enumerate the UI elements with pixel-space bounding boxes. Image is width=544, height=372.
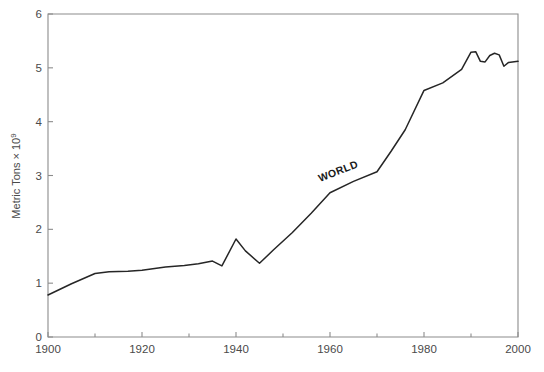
y-tick-label-1: 1 bbox=[36, 277, 42, 289]
x-tick-label-2000: 2000 bbox=[505, 343, 531, 355]
y-axis-title-text: Metric Tons × 10 bbox=[10, 138, 22, 219]
x-axis-tick-labels: 190019201940196019802000 bbox=[35, 343, 531, 355]
series-annotation-1: WORLD bbox=[316, 158, 359, 184]
y-tick-label-2: 2 bbox=[36, 223, 42, 235]
x-tick-label-1920: 1920 bbox=[129, 343, 155, 355]
x-tick-label-1980: 1980 bbox=[411, 343, 437, 355]
y-tick-label-4: 4 bbox=[36, 116, 43, 128]
x-tick-label-1960: 1960 bbox=[317, 343, 343, 355]
y-axis-title: Metric Tons × 109 bbox=[9, 133, 22, 219]
y-axis-title-exponent: 9 bbox=[9, 133, 18, 138]
x-tick-label-1900: 1900 bbox=[35, 343, 61, 355]
chart-canvas: 0123456 190019201940196019802000 Metric … bbox=[0, 0, 544, 372]
svg-text:Metric Tons × 109: Metric Tons × 109 bbox=[9, 133, 22, 219]
data-series-world bbox=[48, 52, 518, 295]
x-axis-ticks bbox=[48, 332, 518, 337]
y-tick-label-3: 3 bbox=[36, 170, 42, 182]
y-tick-label-5: 5 bbox=[36, 62, 42, 74]
x-tick-label-1940: 1940 bbox=[223, 343, 249, 355]
plot-frame bbox=[48, 14, 518, 337]
y-tick-label-6: 6 bbox=[36, 8, 42, 20]
y-axis-ticks bbox=[48, 14, 53, 337]
chart-figure: 0123456 190019201940196019802000 Metric … bbox=[0, 0, 544, 372]
chart-annotations: WORLD bbox=[316, 158, 359, 184]
y-axis-tick-labels: 0123456 bbox=[36, 8, 43, 343]
y-tick-label-0: 0 bbox=[36, 331, 42, 343]
